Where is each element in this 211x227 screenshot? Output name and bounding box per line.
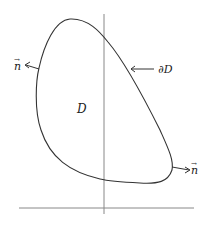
normal-arrow-right [172,167,190,173]
boundary-label: ∂D [158,63,173,76]
normal-vector-arrow-left: → [14,56,20,64]
region-boundary-diagram: n → ∂D D n → [0,0,211,227]
normal-vector-arrow-right: → [191,160,197,168]
region-label: D [76,102,87,116]
normal-arrow-left [25,62,39,69]
boundary-pointer-arrow [131,66,154,72]
